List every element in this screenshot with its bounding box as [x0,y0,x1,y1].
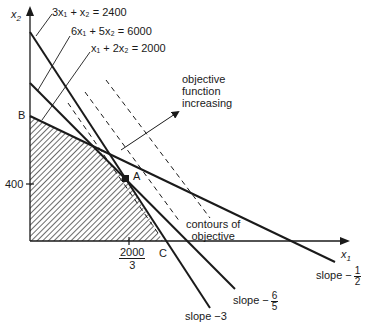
x-axis-label: x1 [341,248,351,265]
point-c-label: C [159,247,167,259]
slope-label-minus-1-2: slope − 1 2 [316,266,361,287]
point-a-marker [122,175,129,182]
constraint-label-x1-2x2: x₁ + 2x₂ = 2000 [91,42,166,54]
point-b-label: B [18,109,25,121]
point-a-label: A [133,170,140,182]
slope-label-minus-6-5: slope − 6 5 [233,291,278,312]
constraint-label-6x1-5x2: 6x₁ + 5x₂ = 6000 [71,25,152,37]
leader-3x1-x2 [36,14,52,36]
x-tick-label-2000-3: 2000 3 [117,246,145,271]
constraint-label-3x1-x2: 3x₁ + x₂ = 2400 [52,6,127,18]
y-axis-label: x2 [11,8,21,25]
lp-diagram-canvas [0,0,370,331]
x-axis-arrow-icon [340,237,350,245]
y-tick-label-400: 400 [5,178,23,190]
objective-increasing-arrow-icon [121,112,178,150]
annotation-objective-increasing: objective function increasing [182,73,232,109]
slope-label-minus-3: slope −3 [185,310,227,322]
y-axis-arrow-icon [26,6,34,16]
annotation-contours-of-objective: contours of objective [186,218,240,242]
leader-6x1-5x2 [38,36,70,90]
